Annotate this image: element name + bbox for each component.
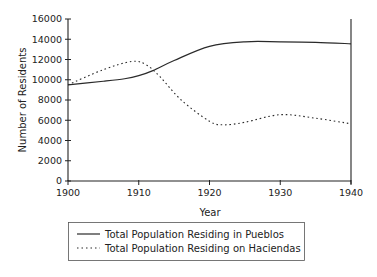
y-axis-ticks: 0200040006000800010000120001400016000 — [32, 13, 71, 186]
legend: Total Population Residing in Pueblos Tot… — [69, 223, 305, 261]
series-lines — [68, 41, 351, 124]
y-tick-label: 14000 — [32, 34, 62, 45]
y-tick-label: 2000 — [38, 155, 62, 166]
line-chart: 0200040006000800010000120001400016000 19… — [0, 0, 377, 277]
x-axis-ticks: 19001910192019301940 — [56, 180, 363, 198]
series-line-haciendas — [68, 61, 351, 125]
y-tick-label: 0 — [56, 175, 62, 186]
x-tick-label: 1940 — [339, 187, 363, 198]
y-tick-label: 10000 — [32, 74, 62, 85]
x-tick-label: 1900 — [56, 187, 80, 198]
legend-label-pueblos: Total Population Residing in Pueblos — [104, 229, 284, 240]
x-axis-title: Year — [198, 207, 221, 218]
y-tick-label: 12000 — [32, 54, 62, 65]
y-tick-label: 16000 — [32, 13, 62, 24]
y-tick-label: 6000 — [38, 115, 62, 126]
x-tick-label: 1920 — [197, 187, 221, 198]
series-line-pueblos — [68, 41, 351, 84]
x-tick-label: 1930 — [268, 187, 292, 198]
y-tick-label: 8000 — [38, 94, 62, 105]
axes — [68, 19, 351, 184]
x-tick-label: 1910 — [127, 187, 151, 198]
legend-label-haciendas: Total Population Residing on Haciendas — [104, 243, 301, 254]
y-tick-label: 4000 — [38, 135, 62, 146]
y-axis-title: Number of Residents — [17, 48, 28, 153]
